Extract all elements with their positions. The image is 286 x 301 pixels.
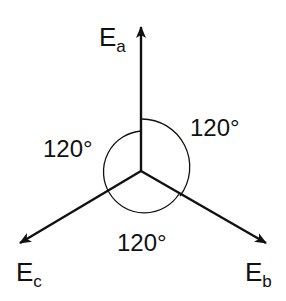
angle-label-ab: 120° [190,114,240,141]
phasor-label-ec: Ec [16,257,42,291]
angle-label-bc: 120° [117,229,167,256]
phasor-label-eb: Eb [245,257,272,291]
phasor-label-ea: Ea [99,22,126,56]
phasor-diagram: Ea Eb Ec 120° 120° 120° [0,0,286,301]
angle-label-ca: 120° [43,135,93,162]
